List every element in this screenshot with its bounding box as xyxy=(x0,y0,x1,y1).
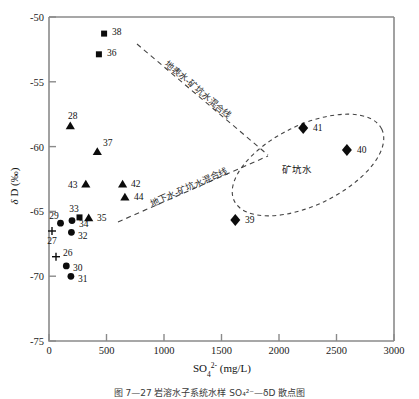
x-tick-label: 500 xyxy=(99,345,115,356)
x-ticks xyxy=(49,334,394,341)
x-tick-label: 2000 xyxy=(269,345,290,356)
data-point-32[interactable] xyxy=(68,229,75,236)
data-point-label-32: 32 xyxy=(78,231,88,241)
data-point-26[interactable] xyxy=(52,253,60,261)
y-tick-label: -75 xyxy=(30,336,44,347)
data-point-label-42: 42 xyxy=(131,179,141,189)
y-tick-label: -50 xyxy=(30,12,44,23)
data-point-label-44: 44 xyxy=(134,192,144,202)
x-tick-label: 3000 xyxy=(384,345,405,356)
data-point-label-34: 34 xyxy=(79,219,89,229)
axes xyxy=(49,17,394,341)
axis-left-bottom xyxy=(49,17,394,341)
data-point-label-31: 31 xyxy=(78,274,88,284)
mine-water-ellipse-label: 矿坑水 xyxy=(282,164,312,175)
x-tick-label: 1000 xyxy=(154,345,175,356)
data-point-label-30: 30 xyxy=(73,263,83,273)
data-point-39[interactable] xyxy=(230,214,240,226)
data-point-37[interactable] xyxy=(93,147,102,155)
y-tick-label: -65 xyxy=(30,206,44,217)
data-point-label-37: 37 xyxy=(103,138,113,148)
series-square-samples: 38 36 xyxy=(96,27,122,58)
data-point-label-35: 35 xyxy=(97,213,107,223)
data-point-36[interactable] xyxy=(96,51,102,57)
data-point-38[interactable] xyxy=(101,31,107,37)
y-tick-label: -55 xyxy=(30,77,44,88)
y-tick-labels: -50 -55 -60 -65 -70 -75 xyxy=(30,12,44,347)
data-point-42[interactable] xyxy=(118,180,127,188)
data-point-label-38: 38 xyxy=(112,27,122,37)
data-point-label-28: 28 xyxy=(68,111,78,121)
x-axis-title: SO42- (mg/L) xyxy=(193,361,251,379)
data-point-44[interactable] xyxy=(120,193,129,201)
x-tick-labels: 0 500 1000 1500 2000 2500 3000 xyxy=(46,345,404,356)
y-tick-label: -70 xyxy=(30,271,44,282)
data-point-label-29: 29 xyxy=(49,211,59,221)
scatter-figure: -50 -55 -60 -65 -70 -75 0 500 1000 1500 … xyxy=(0,0,419,399)
data-point-41[interactable] xyxy=(298,122,308,134)
data-point-31[interactable] xyxy=(68,273,75,280)
x-tick-label: 2500 xyxy=(326,345,347,356)
y-tick-label: -60 xyxy=(30,142,44,153)
data-point-label-27: 27 xyxy=(47,236,57,246)
y-axis-title: δ D (‰) xyxy=(8,167,21,204)
x-tick-label: 1500 xyxy=(211,345,232,356)
data-point-label-39: 39 xyxy=(245,215,255,225)
y-ticks xyxy=(49,17,56,341)
data-point-30[interactable] xyxy=(63,263,70,270)
figure-caption: 图 7—27 岩溶水子系统水样 SO₄²⁻—δD 散点图 xyxy=(0,387,419,399)
data-point-40[interactable] xyxy=(342,144,352,156)
data-point-label-41: 41 xyxy=(313,123,323,133)
mixing-line-ground-label: 地下水-矿坑水混合线 xyxy=(148,165,229,209)
data-point-label-26: 26 xyxy=(63,248,73,258)
data-point-34[interactable] xyxy=(69,217,76,224)
data-point-28[interactable] xyxy=(66,121,75,129)
x-tick-label: 0 xyxy=(46,345,51,356)
mixing-line-surface-label: 地表水-矿坑水混合线 xyxy=(162,58,234,121)
data-point-label-40: 40 xyxy=(357,145,367,155)
chart-svg: -50 -55 -60 -65 -70 -75 0 500 1000 1500 … xyxy=(0,0,419,399)
data-point-label-36: 36 xyxy=(107,48,117,58)
data-point-label-43: 43 xyxy=(68,180,78,190)
data-point-43[interactable] xyxy=(81,180,90,188)
data-point-label-33: 33 xyxy=(69,204,79,214)
